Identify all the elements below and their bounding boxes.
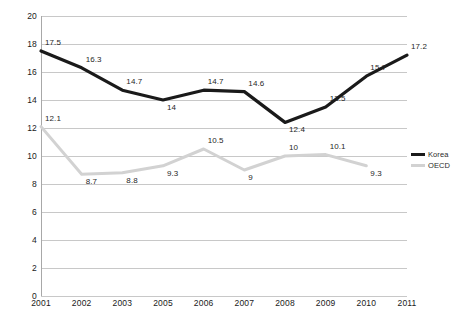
data-label: 8.8	[126, 176, 137, 185]
x-axis-tick: 2009	[316, 298, 336, 308]
data-label: 12.1	[45, 114, 61, 123]
x-axis-tick-labels: 2001200220032005200620072008200920102011	[41, 298, 407, 314]
data-label: 10.5	[208, 136, 224, 145]
data-label: 15.7	[370, 63, 386, 72]
x-axis-tick: 2001	[31, 298, 51, 308]
legend-label-oecd: OECD	[428, 160, 450, 171]
x-axis-tick: 2008	[275, 298, 295, 308]
x-axis-tick: 2006	[194, 298, 214, 308]
x-axis-tick: 2003	[112, 298, 132, 308]
chart-legend: Korea OECD	[411, 149, 465, 171]
data-label: 14.7	[126, 77, 142, 86]
y-axis-tick: 14	[3, 95, 37, 105]
data-label: 10	[289, 143, 298, 152]
data-label: 14.7	[208, 77, 224, 86]
y-axis-tick: 6	[3, 207, 37, 217]
data-label: 14	[167, 103, 176, 112]
legend-item-oecd[interactable]: OECD	[411, 160, 465, 171]
x-axis-tick: 2011	[397, 298, 416, 308]
y-axis-tick-labels: 20181614121086420	[0, 16, 37, 296]
data-label: 8.7	[86, 177, 97, 186]
data-label: 17.5	[45, 38, 61, 47]
y-axis-tick: 4	[3, 235, 37, 245]
y-axis-tick: 10	[3, 151, 37, 161]
data-label: 12.4	[289, 125, 305, 134]
legend-item-korea[interactable]: Korea	[411, 149, 465, 160]
y-axis-tick: 20	[3, 11, 37, 21]
y-axis-tick: 18	[3, 39, 37, 49]
legend-label-korea: Korea	[428, 149, 449, 160]
data-label: 16.3	[86, 55, 102, 64]
y-axis-tick: 8	[3, 179, 37, 189]
legend-swatch-oecd-icon	[411, 164, 425, 167]
y-axis-tick: 16	[3, 67, 37, 77]
data-label: 10.1	[330, 142, 346, 151]
data-label: 9.3	[167, 169, 178, 178]
grid-line	[41, 296, 407, 297]
data-labels: 17.516.314.71414.714.612.413.515.717.212…	[41, 16, 407, 295]
data-label: 13.5	[330, 94, 346, 103]
x-axis-tick: 2002	[72, 298, 92, 308]
x-axis-tick: 2010	[356, 298, 376, 308]
legend-swatch-korea-icon	[411, 153, 425, 157]
data-label: 17.2	[411, 42, 427, 51]
x-axis-tick: 2005	[153, 298, 173, 308]
y-axis-tick: 12	[3, 123, 37, 133]
data-label: 9	[248, 173, 253, 182]
line-chart: 20181614121086420 17.516.314.71414.714.6…	[0, 0, 467, 325]
data-label: 9.3	[370, 169, 381, 178]
y-axis-tick: 2	[3, 263, 37, 273]
x-axis-tick: 2007	[234, 298, 254, 308]
data-label: 14.6	[248, 79, 264, 88]
